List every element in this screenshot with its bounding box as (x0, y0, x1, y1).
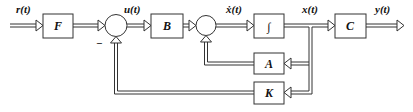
block-A-label: A (264, 57, 273, 71)
label-r: r(t) (16, 3, 31, 16)
output-arrow-y (366, 20, 404, 31)
sum1-minus-sign: − (96, 37, 103, 49)
arrow-sum1-B (127, 20, 151, 31)
block-C-label: C (346, 19, 355, 33)
label-x: x(t) (301, 3, 318, 16)
summing-junction-1 (105, 15, 127, 37)
label-xdot: ẋ(t) (225, 3, 242, 16)
block-B-label: B (162, 19, 171, 33)
block-diagram: r(t) F − u(t) B ẋ(t) ∫ (0, 0, 413, 112)
label-u: u(t) (124, 3, 141, 16)
integrator-symbol: ∫ (266, 20, 271, 34)
state-feedback-branch (284, 27, 312, 98)
label-y: y(t) (373, 3, 390, 16)
summing-junction-2 (196, 16, 216, 36)
input-arrow-r (10, 20, 43, 31)
arrow-F-sum1 (73, 20, 105, 31)
arrow-sum2-integrator (216, 20, 254, 31)
arrow-B-sum2 (183, 20, 196, 31)
arrow-A-sum2 (201, 36, 255, 66)
block-K-label: K (264, 86, 274, 100)
block-F-label: F (53, 19, 62, 33)
